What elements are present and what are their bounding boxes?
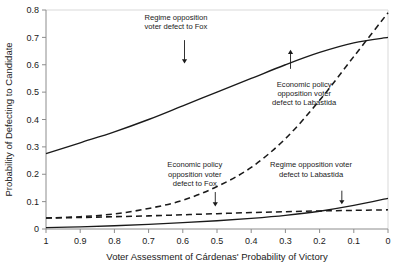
- y-tick-label: 0.4: [26, 115, 39, 125]
- annot-regime-fox: Regime oppositionvoter defect to Fox: [145, 13, 208, 64]
- y-tick-label: 0.7: [26, 33, 39, 43]
- y-axis-title: Probability of Defecting to Candidate: [3, 42, 14, 196]
- annot-econ-fox-label: Economic policyopposition voterdefect to…: [167, 160, 222, 187]
- annot-regime-fox-arrow-head: [182, 59, 187, 63]
- x-tick-label: 1: [43, 236, 48, 246]
- series-line-2: [46, 210, 388, 218]
- y-tick-label: 0.8: [26, 5, 39, 15]
- annot-econ-labastida-arrow-head: [288, 50, 293, 54]
- x-tick-label: 0.2: [313, 236, 326, 246]
- y-tick-label: 0.1: [26, 197, 39, 207]
- annot-regime-labastida-label: Regime opposition voterdefect to Labasti…: [270, 160, 352, 178]
- x-tick-label: 0.6: [177, 236, 190, 246]
- annot-regime-labastida-arrow-head: [339, 200, 344, 204]
- y-tick-label: 0.6: [26, 60, 39, 70]
- probability-of-defecting-line-chart: 00.10.20.30.40.50.60.70.810.90.80.70.60.…: [0, 0, 402, 274]
- annot-econ-fox-arrow-head: [213, 202, 218, 206]
- x-tick-label: 0.1: [348, 236, 361, 246]
- series-line-0: [46, 37, 388, 153]
- x-tick-label: 0.8: [108, 236, 121, 246]
- y-tick-label: 0.3: [26, 142, 39, 152]
- annot-econ-fox: Economic policyopposition voterdefect to…: [167, 160, 222, 206]
- annot-regime-labastida: Regime opposition voterdefect to Labasti…: [270, 160, 352, 204]
- x-tick-label: 0.5: [211, 236, 224, 246]
- x-tick-label: 0.3: [279, 236, 292, 246]
- annot-econ-labastida-label: Economic policyopposition voterdefect to…: [272, 80, 337, 107]
- x-tick-label: 0.7: [142, 236, 155, 246]
- x-tick-label: 0.4: [245, 236, 258, 246]
- x-tick-label: 0.9: [74, 236, 87, 246]
- y-tick-label: 0.5: [26, 87, 39, 97]
- x-axis-title: Voter Assessment of Cárdenas' Probabilit…: [106, 251, 328, 262]
- annot-regime-fox-label: Regime oppositionvoter defect to Fox: [145, 13, 208, 31]
- y-tick-label: 0.2: [26, 169, 39, 179]
- chart-container: 00.10.20.30.40.50.60.70.810.90.80.70.60.…: [0, 0, 402, 274]
- y-tick-label: 0: [34, 224, 39, 234]
- x-tick-label: 0: [385, 236, 390, 246]
- plot-frame: [46, 10, 388, 229]
- series-line-1: [46, 13, 388, 218]
- plot-axes: [46, 10, 388, 229]
